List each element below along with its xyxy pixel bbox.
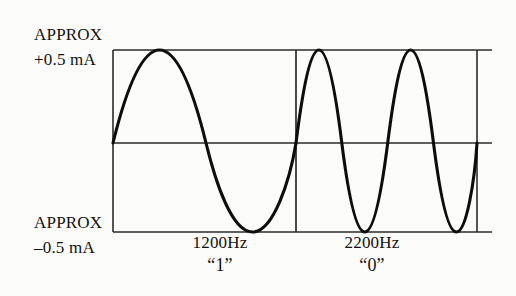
axis-label-negative-current: –0.5 mA bbox=[34, 239, 95, 257]
segment-bit-label-one: “1” bbox=[160, 256, 280, 274]
waveform-1200hz bbox=[113, 50, 296, 232]
figure-canvas: APPROX +0.5 mA APPROX –0.5 mA 1200Hz “1”… bbox=[0, 0, 516, 296]
axis-label-positive-current: +0.5 mA bbox=[34, 51, 96, 69]
waveform-2200hz bbox=[296, 50, 477, 232]
axis-label-bottom-approx: APPROX bbox=[34, 214, 102, 232]
segment-frequency-label-2200hz: 2200Hz bbox=[312, 234, 432, 252]
axis-label-top-approx: APPROX bbox=[34, 26, 102, 44]
segment-frequency-label-1200hz: 1200Hz bbox=[160, 234, 280, 252]
segment-bit-label-zero: “0” bbox=[312, 256, 432, 274]
